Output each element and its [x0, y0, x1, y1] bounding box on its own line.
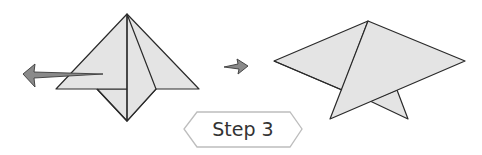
- step-badge-label: Step 3: [212, 118, 273, 140]
- transition-arrow: [224, 59, 248, 74]
- origami-diagram: Step 3: [0, 0, 482, 155]
- transition-arrow-icon: [224, 59, 248, 74]
- figure-after-fold: [274, 21, 465, 119]
- step-badge: Step 3: [184, 112, 302, 147]
- figure-before-fold: [56, 14, 199, 121]
